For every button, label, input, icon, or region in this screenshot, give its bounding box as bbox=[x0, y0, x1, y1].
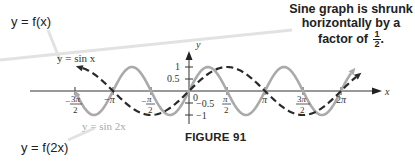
transformed-function-label: y = f(2x) bbox=[21, 140, 68, 155]
tick-labels: y x 1 0.5 0 −0.5 −1 − 3π 2 −π − π 2 π 2 … bbox=[65, 39, 390, 121]
fraction-one-half: 12 bbox=[373, 30, 380, 49]
x-tick-neg-pi: −π bbox=[104, 94, 116, 105]
x-tick-pi: π bbox=[262, 94, 268, 105]
svg-text:π: π bbox=[223, 94, 228, 104]
curve-label-sin-x: y = sin x bbox=[57, 52, 96, 64]
arrow-sin-x-left bbox=[76, 65, 84, 71]
svg-text:3π: 3π bbox=[71, 94, 81, 104]
note-line-2-text: horizontally by a factor of bbox=[302, 16, 401, 46]
svg-text:π: π bbox=[147, 94, 152, 104]
y-tick-1: 1 bbox=[175, 61, 180, 72]
svg-text:2: 2 bbox=[300, 105, 305, 115]
x-tick-3pi-2: 3π 2 bbox=[296, 94, 310, 115]
svg-text:−: − bbox=[141, 96, 146, 106]
callout-line-note bbox=[0, 30, 292, 60]
svg-text:3π: 3π bbox=[297, 94, 307, 104]
figure-caption: FIGURE 91 bbox=[185, 131, 246, 143]
svg-text:2: 2 bbox=[224, 105, 229, 115]
x-axis-label: x bbox=[384, 86, 390, 97]
note-line-1: Sine graph is shrunk bbox=[286, 2, 415, 16]
svg-text:−: − bbox=[65, 96, 70, 106]
y-tick-neg-0.5: −0.5 bbox=[196, 98, 214, 109]
note-line-2: horizontally by a factor of 12. bbox=[286, 16, 415, 49]
y-axis-label: y bbox=[195, 39, 201, 50]
svg-text:2: 2 bbox=[73, 105, 78, 115]
original-function-label: y = f(x) bbox=[11, 14, 51, 29]
x-axis bbox=[30, 88, 382, 95]
curve-label-sin-2x: y = sin 2x bbox=[82, 120, 126, 132]
x-tick-neg-3pi-2: − 3π 2 bbox=[65, 94, 82, 115]
annotation-note: Sine graph is shrunk horizontally by a f… bbox=[286, 2, 415, 49]
x-tick-2pi: 2π bbox=[336, 94, 347, 105]
svg-text:2: 2 bbox=[148, 105, 153, 115]
y-tick-0.5: 0.5 bbox=[167, 73, 180, 84]
y-tick-neg-1: −1 bbox=[196, 110, 207, 121]
